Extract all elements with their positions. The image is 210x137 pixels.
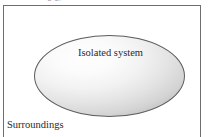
isolated-system-figure: g g) Isolated system Surroundings <box>0 0 210 137</box>
page-frame-border: Isolated system <box>3 5 201 137</box>
isolated-system-ellipse: Isolated system <box>34 35 185 117</box>
clipped-caption-text: g g) <box>48 0 63 1</box>
isolated-system-label: Isolated system <box>35 47 186 58</box>
surroundings-label: Surroundings <box>7 119 64 130</box>
